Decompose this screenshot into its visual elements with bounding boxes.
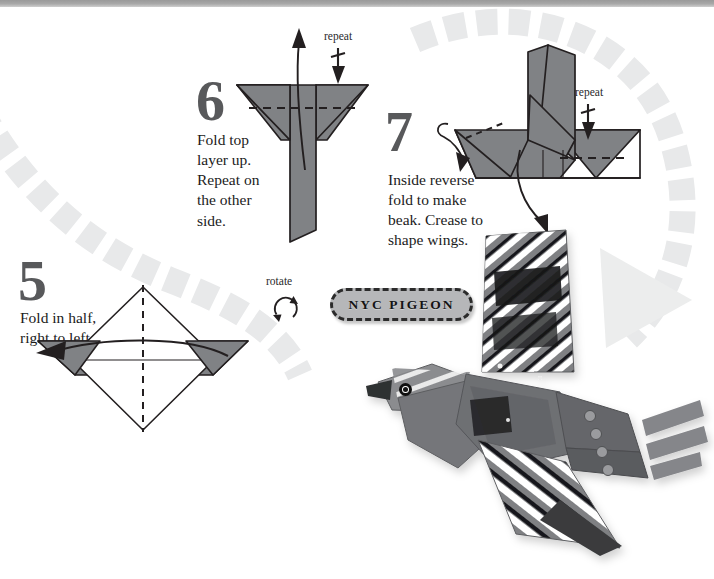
pigeon-body-accent	[470, 396, 512, 436]
pigeon-dot-2	[591, 429, 602, 440]
pigeon-dot-3	[597, 447, 608, 458]
pigeon-near-wing	[556, 392, 640, 452]
pigeon-beak	[366, 380, 392, 400]
pigeon-eye-icon	[399, 383, 412, 396]
pigeon-dot-1	[585, 411, 596, 422]
pigeon-highlight-3	[506, 418, 510, 422]
pigeon-dot-4	[603, 465, 614, 476]
pigeon-highlight-1	[498, 364, 503, 369]
finished-pigeon-model	[0, 0, 714, 579]
pigeon-wing-accent-2	[492, 312, 558, 350]
pigeon-wing-accent	[494, 266, 562, 306]
instruction-page: 5 Fold in half, right to left. rotate	[0, 0, 714, 579]
pigeon-highlight-2	[538, 376, 542, 380]
